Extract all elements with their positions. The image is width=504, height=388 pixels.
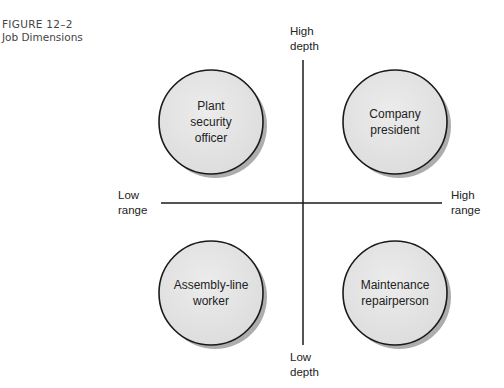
axis-label-low-range: Low range <box>118 188 147 218</box>
axis-label-high-depth: High depth <box>290 24 319 54</box>
diagram-canvas <box>0 0 504 388</box>
quadrant-label-maintenance-repairperson: Maintenance repairperson <box>345 277 445 309</box>
axis-label-high-range: High range <box>451 188 480 218</box>
axis-label-low-depth: Low depth <box>290 350 319 380</box>
quadrant-label-company-president: Company president <box>345 106 445 138</box>
quadrant-label-assembly-line-worker: Assembly-line worker <box>161 277 261 309</box>
quadrant-label-plant-security-officer: Plant security officer <box>161 98 261 146</box>
